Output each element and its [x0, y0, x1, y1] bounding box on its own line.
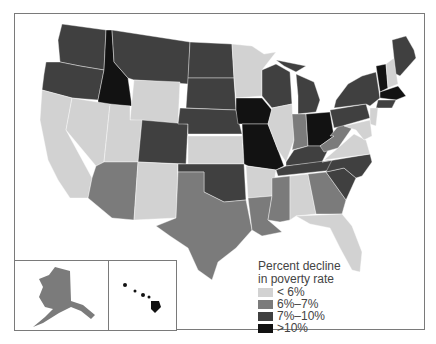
state-co	[138, 120, 188, 164]
state-wi	[262, 64, 292, 108]
state-wy	[130, 80, 180, 124]
legend: Percent decline in poverty rate < 6% 6%–…	[258, 260, 341, 334]
legend-swatch-medium	[258, 300, 273, 309]
state-az	[88, 162, 138, 220]
state-ny	[334, 72, 380, 108]
state-ks	[188, 136, 244, 164]
state-nm	[134, 162, 178, 220]
state-in	[292, 114, 308, 150]
state-sd	[186, 78, 236, 110]
state-nd	[188, 42, 234, 78]
alaska-inset	[14, 260, 109, 331]
legend-label: >10%	[277, 322, 308, 334]
state-ct-ri	[376, 100, 396, 108]
alaska-shape	[15, 261, 110, 332]
state-nj	[370, 108, 378, 126]
legend-swatch-dark	[258, 312, 273, 321]
legend-item-gt10: >10%	[258, 322, 341, 334]
state-ar	[246, 166, 276, 198]
state-mi	[296, 74, 320, 114]
legend-swatch-black	[258, 324, 273, 333]
state-ia	[236, 98, 272, 124]
hawaii-inset	[108, 260, 177, 331]
hawaii-shape	[109, 261, 178, 332]
state-me	[392, 36, 416, 76]
legend-swatch-light	[258, 288, 273, 297]
